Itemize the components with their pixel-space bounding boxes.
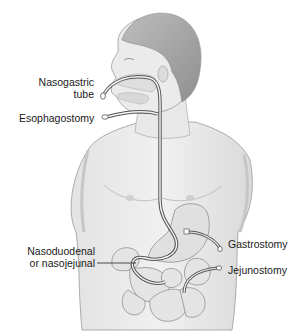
anatomy-illustration bbox=[0, 0, 300, 335]
label-nasogastric-tube: Nasogastric tube bbox=[20, 76, 94, 100]
label-nasogastric-line2: tube bbox=[20, 88, 94, 100]
label-jejunostomy: Jejunostomy bbox=[228, 264, 287, 276]
nasogastric-tube-end bbox=[101, 93, 106, 99]
feeding-tube-diagram: Nasogastric tube Esophagostomy Nasoduode… bbox=[0, 0, 300, 335]
label-nasoduodenal: Nasoduodenal or nasojejunal bbox=[0, 245, 95, 269]
label-nasogastric-line1: Nasogastric bbox=[20, 76, 94, 88]
label-esophagostomy: Esophagostomy bbox=[19, 112, 94, 124]
label-nasoduodenal-line2: or nasojejunal bbox=[0, 257, 95, 269]
ear bbox=[158, 66, 168, 82]
label-gastrostomy: Gastrostomy bbox=[228, 238, 288, 250]
head bbox=[111, 13, 201, 113]
label-nasoduodenal-line1: Nasoduodenal bbox=[0, 245, 95, 257]
